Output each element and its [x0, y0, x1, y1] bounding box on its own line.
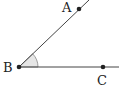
point-A: [77, 7, 82, 12]
angle-arc-ABC: [19, 54, 38, 67]
label-C: C: [97, 73, 107, 88]
label-B: B: [3, 60, 13, 75]
angle-diagram: A B C: [0, 0, 121, 89]
point-C: [101, 65, 106, 70]
point-B: [17, 65, 22, 70]
label-A: A: [61, 0, 72, 15]
